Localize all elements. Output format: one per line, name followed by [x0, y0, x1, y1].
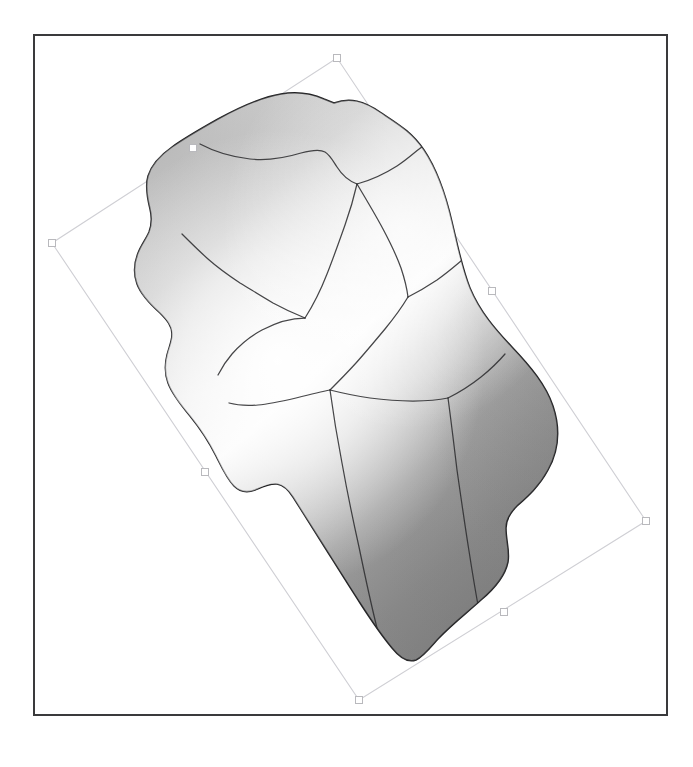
handle-top-left-mid[interactable] [190, 145, 197, 152]
handle-bottom-right-mid[interactable] [501, 609, 508, 616]
artwork-group[interactable] [0, 0, 693, 767]
handle-left[interactable] [49, 240, 56, 247]
vector-artwork-svg [0, 0, 693, 767]
canvas-root: No visible UI text, labels, menus, or nu… [0, 0, 693, 767]
handle-top[interactable] [334, 55, 341, 62]
handle-top-right-mid[interactable] [489, 288, 496, 295]
highlight-secondary [0, 0, 693, 767]
handle-bottom-left-mid[interactable] [202, 469, 209, 476]
handle-right[interactable] [643, 518, 650, 525]
handle-bottom[interactable] [356, 697, 363, 704]
blob-shading-layers [0, 0, 693, 767]
